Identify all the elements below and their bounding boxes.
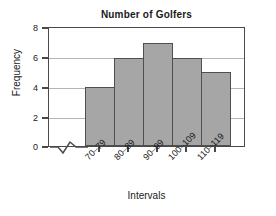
- bar-80-89: [114, 58, 144, 147]
- x-axis-title: Intervals: [48, 190, 245, 201]
- y-tick-label-4: 4: [33, 83, 38, 93]
- bar-90-99: [143, 43, 173, 146]
- bar-series: [49, 28, 244, 146]
- y-axis: Frequency: [0, 0, 48, 216]
- y-tick-label-2: 2: [33, 113, 38, 123]
- plot-area: [48, 27, 245, 147]
- y-tick-label-0: 0: [33, 142, 38, 152]
- y-tick-label-6: 6: [33, 53, 38, 63]
- y-tick-label-8: 8: [33, 23, 38, 33]
- chart-title: Number of Golfers: [48, 9, 245, 20]
- axis-break-icon: [50, 140, 88, 154]
- y-axis-title: Frequency: [11, 35, 22, 111]
- histogram-figure: Number of Golfers Frequency 8 6 4 2 0 70…: [0, 0, 276, 216]
